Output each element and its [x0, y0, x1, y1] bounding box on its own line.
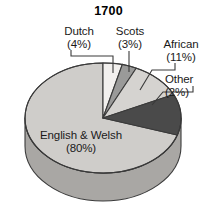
slice-label-dutch-name: Dutch	[57, 25, 101, 38]
slice-label-dutch: Dutch (4%)	[57, 25, 101, 50]
slice-label-english-welsh-percent: (80%)	[26, 142, 136, 155]
slice-label-other: Other (2%)	[165, 73, 215, 98]
slice-label-other-name: Other	[165, 73, 215, 86]
chart-title: 1700	[0, 4, 217, 18]
slice-label-scots: Scots (3%)	[110, 25, 150, 50]
slice-label-african: African (11%)	[152, 38, 210, 63]
slice-label-english-welsh-name: English & Welsh	[26, 129, 136, 142]
slice-label-other-percent: (2%)	[165, 86, 215, 99]
slice-label-african-percent: (11%)	[152, 51, 210, 64]
slice-label-scots-name: Scots	[110, 25, 150, 38]
slice-label-african-name: African	[152, 38, 210, 51]
pie-chart-graphic	[0, 0, 217, 221]
slice-label-scots-percent: (3%)	[110, 38, 150, 51]
slice-label-dutch-percent: (4%)	[57, 38, 101, 51]
slice-label-english-welsh: English & Welsh (80%)	[26, 129, 136, 154]
pie-chart-figure: 1700 Dutch (4%) Scots (3%) African (11%)…	[0, 0, 217, 221]
